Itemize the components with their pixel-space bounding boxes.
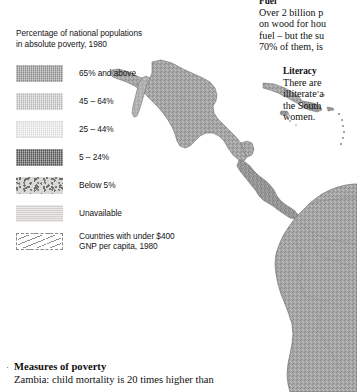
legend-item-unavailable[interactable]: Unavailable xyxy=(14,199,189,227)
note-fuel-heading: Fuel xyxy=(259,0,357,6)
note-fuel-body: Over 2 billion p on wood for hou fuel – … xyxy=(259,7,357,53)
legend-item-45-64[interactable]: 45 – 64% xyxy=(14,87,189,115)
legend-item-under-400-gnp[interactable]: Countries with under $400 GNP per capita… xyxy=(14,227,189,255)
note-literacy-body: There are illiterate a the South women. xyxy=(283,77,357,123)
legend-label-65-and-above: 65% and above xyxy=(79,68,136,79)
note-measures-of-poverty: · Measures of poverty Zambia: child mort… xyxy=(6,361,306,386)
legend-label-25-44: 25 – 44% xyxy=(79,124,114,135)
note-measures-text: Measures of poverty Zambia: child mortal… xyxy=(14,361,306,386)
bullet-marker: · xyxy=(6,361,14,386)
legend-label-under-400-gnp: Countries with under $400 GNP per capita… xyxy=(79,231,175,252)
legend-items: 65% and above 45 – 64% 25 – 44% 5 – 24% … xyxy=(14,59,189,255)
legend-item-65-and-above[interactable]: 65% and above xyxy=(14,59,189,87)
map-region-central-america xyxy=(237,160,298,219)
swatch-25-44 xyxy=(16,121,63,138)
swatch-below-5 xyxy=(16,177,63,194)
legend-label-below-5: Below 5% xyxy=(79,180,116,191)
note-measures-heading: Measures of poverty xyxy=(14,361,306,373)
map-legend: Percentage of national populations in ab… xyxy=(14,28,189,255)
legend-item-below-5[interactable]: Below 5% xyxy=(14,171,189,199)
swatch-unavailable xyxy=(16,205,63,222)
swatch-5-24 xyxy=(16,149,63,166)
legend-item-5-24[interactable]: 5 – 24% xyxy=(14,143,189,171)
legend-label-unavailable: Unavailable xyxy=(79,208,122,219)
legend-label-45-64: 45 – 64% xyxy=(79,96,114,107)
legend-item-25-44[interactable]: 25 – 44% xyxy=(14,115,189,143)
note-fuel: Fuel Over 2 billion p on wood for hou fu… xyxy=(259,0,357,53)
note-literacy-heading: Literacy xyxy=(283,66,357,76)
legend-label-5-24: 5 – 24% xyxy=(79,152,109,163)
note-literacy: Literacy There are illiterate a the Sout… xyxy=(283,66,357,123)
legend-title: Percentage of national populations in ab… xyxy=(16,28,189,50)
swatch-45-64 xyxy=(16,93,63,110)
swatch-under-400-gnp xyxy=(16,233,63,250)
note-measures-body: Zambia: child mortality is 20 times high… xyxy=(14,373,306,386)
swatch-65-and-above xyxy=(16,65,63,82)
